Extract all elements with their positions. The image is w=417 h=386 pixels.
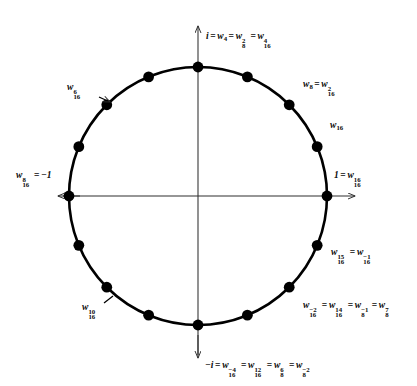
root-point xyxy=(143,71,154,82)
label-w16-10: w1016 xyxy=(82,302,99,313)
root-point xyxy=(284,99,295,110)
root-point xyxy=(312,141,323,152)
label-w16-6: w616 xyxy=(67,82,83,93)
root-point xyxy=(322,191,333,202)
label-i-top: i=w4=w28=w416 xyxy=(206,31,274,43)
label-w16-15: w1516=w−116 xyxy=(331,247,374,258)
label-w16-minus2: w−216=w1416=w−18=w78 xyxy=(303,300,392,311)
root-point xyxy=(193,62,204,73)
root-point xyxy=(193,320,204,331)
root-point xyxy=(312,240,323,251)
root-point xyxy=(242,71,253,82)
label-minus-one-left: w816=−1 xyxy=(16,170,52,181)
root-point xyxy=(101,282,112,293)
label-one-right: 1=w1616 xyxy=(334,170,365,181)
label-pointer-group xyxy=(99,97,113,303)
root-point xyxy=(143,310,154,321)
label-minus-i-bottom: −i=w−416=w1216=w68=w−28 xyxy=(205,360,311,371)
label-w16: w16 xyxy=(330,120,343,132)
unit-circle-figure xyxy=(0,0,417,386)
pointer-w16-10 xyxy=(104,296,113,303)
label-w8: w8=w216 xyxy=(303,79,338,91)
root-point xyxy=(73,141,84,152)
root-point xyxy=(284,282,295,293)
root-point xyxy=(73,240,84,251)
root-point xyxy=(64,191,75,202)
root-point xyxy=(242,310,253,321)
